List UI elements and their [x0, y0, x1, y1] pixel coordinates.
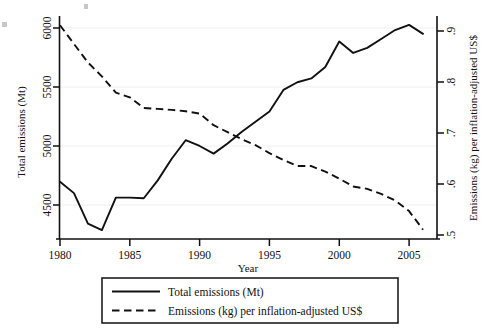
- x-tick-2005: 2005: [398, 249, 421, 261]
- x-axis-tick-labels: 1980 1985 1990 1995 2000 2005: [49, 249, 421, 261]
- x-axis-ticks: [60, 239, 409, 246]
- series-line-total-emissions: [60, 25, 423, 230]
- y-left-tick-6000: 6000: [41, 16, 53, 39]
- x-tick-1980: 1980: [49, 249, 72, 261]
- legend-label-total-emissions: Total emissions (Mt): [168, 286, 264, 299]
- y-left-tick-4500: 4500: [41, 193, 53, 216]
- y-axis-left-tick-labels: 6000 5500 5000 4500: [41, 16, 53, 216]
- x-tick-1995: 1995: [258, 249, 281, 261]
- legend-label-emissions-intensity: Emissions (kg) per inflation-adjusted US…: [168, 305, 362, 318]
- y-right-tick-09: .9: [445, 26, 457, 35]
- x-axis-title: Year: [238, 262, 259, 274]
- y-axis-right-title: Emissions (kg) per inflation-adjusted US…: [467, 35, 480, 221]
- emissions-dual-axis-line-chart: 6000 5500 5000 4500 Total emissions (Mt)…: [0, 0, 496, 333]
- legend: Total emissions (Mt) Emissions (kg) per …: [102, 278, 398, 323]
- y-axis-right-tick-labels: .9 .8 .7 .6 .5: [445, 26, 457, 239]
- y-axis-right-ticks: [437, 31, 444, 235]
- y-left-tick-5500: 5500: [41, 75, 53, 98]
- y-right-tick-08: .8: [445, 77, 457, 86]
- gridlines: [60, 28, 437, 205]
- y-axis-left-title: Total emissions (Mt): [15, 86, 28, 178]
- x-tick-2000: 2000: [328, 249, 351, 261]
- x-tick-1985: 1985: [118, 249, 141, 261]
- plot-series: [60, 25, 423, 230]
- y-left-tick-5000: 5000: [41, 134, 53, 157]
- y-right-tick-05: .5: [445, 230, 457, 239]
- y-right-tick-06: .6: [445, 179, 457, 188]
- y-right-tick-07: .7: [445, 128, 457, 137]
- x-tick-1990: 1990: [188, 249, 211, 261]
